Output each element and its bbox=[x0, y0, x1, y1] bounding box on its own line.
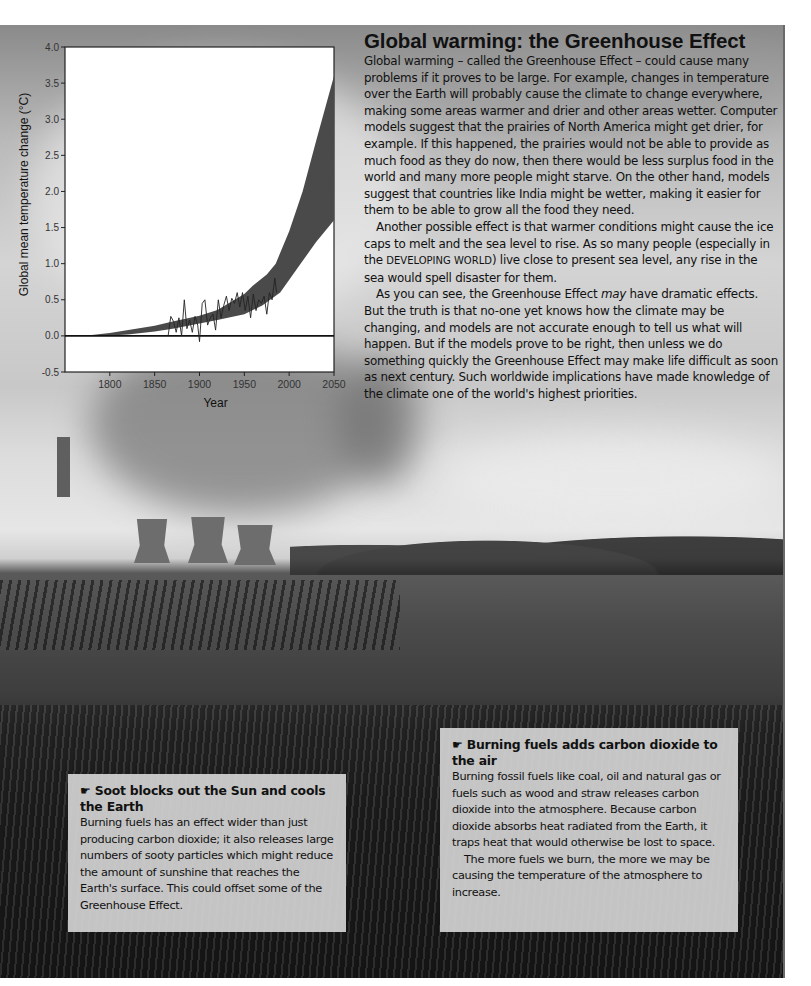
y-tick-label: 0.0 bbox=[45, 330, 59, 341]
pointing-hand-icon: ☛ bbox=[452, 738, 463, 752]
x-axis-label: Year bbox=[203, 396, 227, 410]
y-tick-label: 2.5 bbox=[45, 150, 59, 161]
sky bbox=[440, 435, 785, 525]
paragraph-3: As you can see, the Greenhouse Effect ma… bbox=[364, 286, 779, 402]
article: Global warming: the Greenhouse Effect Gl… bbox=[364, 30, 779, 402]
box-body: The more fuels we burn, the more we may … bbox=[452, 852, 728, 902]
box-title: ☛ Soot blocks out the Sun and cools the … bbox=[80, 783, 336, 815]
cooling-tower bbox=[188, 517, 228, 563]
soot-info-box: ☛ Soot blocks out the Sun and cools the … bbox=[68, 774, 346, 932]
box-title-text: Soot blocks out the Sun and cools the Ea… bbox=[80, 783, 325, 814]
box-title-text: Burning fuels adds carbon dioxide to the… bbox=[452, 737, 718, 768]
x-tick-label: 2050 bbox=[322, 378, 346, 390]
paragraph-1: Global warming – called the Greenhouse E… bbox=[364, 53, 779, 219]
y-tick-label: 3.5 bbox=[45, 78, 59, 89]
emphasis: may bbox=[601, 287, 626, 301]
x-tick-label: 1900 bbox=[188, 378, 212, 390]
treeline bbox=[290, 515, 785, 575]
y-tick-label: 4.0 bbox=[45, 42, 59, 53]
chimney bbox=[57, 437, 70, 497]
y-tick-label: 1.0 bbox=[45, 258, 59, 269]
cooling-tower bbox=[234, 525, 276, 565]
temperature-chart: -0.50.00.51.01.52.02.53.03.54.0180018501… bbox=[0, 25, 350, 420]
x-tick-label: 2000 bbox=[277, 378, 301, 390]
y-tick-label: 0.5 bbox=[45, 294, 59, 305]
y-tick-label: 1.5 bbox=[45, 222, 59, 233]
ploughed-field bbox=[0, 580, 400, 650]
cooling-tower bbox=[134, 519, 170, 563]
text: As you can see, the Greenhouse Effect bbox=[376, 287, 601, 301]
paragraph-2: Another possible effect is that warmer c… bbox=[364, 219, 779, 286]
box-title: ☛ Burning fuels adds carbon dioxide to t… bbox=[452, 737, 728, 769]
x-tick-label: 1950 bbox=[233, 378, 257, 390]
box-body: Burning fuels has an effect wider than j… bbox=[80, 815, 336, 914]
y-axis-label: Global mean temperature change (°C) bbox=[17, 93, 31, 297]
x-tick-label: 1850 bbox=[143, 378, 167, 390]
page-title: Global warming: the Greenhouse Effect bbox=[364, 30, 779, 52]
pointing-hand-icon: ☛ bbox=[80, 784, 91, 798]
box-body: Burning fossil fuels like coal, oil and … bbox=[452, 769, 728, 852]
y-tick-label: -0.5 bbox=[42, 367, 60, 378]
y-tick-label: 2.0 bbox=[45, 186, 59, 197]
y-tick-label: 3.0 bbox=[45, 114, 59, 125]
co2-info-box: ☛ Burning fuels adds carbon dioxide to t… bbox=[440, 728, 738, 932]
chart-svg: -0.50.00.51.01.52.02.53.03.54.0180018501… bbox=[0, 25, 350, 420]
glossary-term: DEVELOPING WORLD bbox=[386, 255, 492, 266]
text: have dramatic effects. But the truth is … bbox=[364, 287, 778, 401]
x-tick-label: 1800 bbox=[98, 378, 122, 390]
